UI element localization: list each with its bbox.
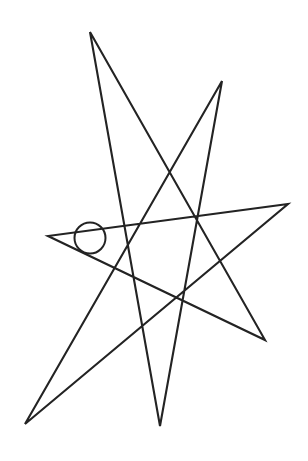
star-polygon-figure: [0, 0, 308, 461]
